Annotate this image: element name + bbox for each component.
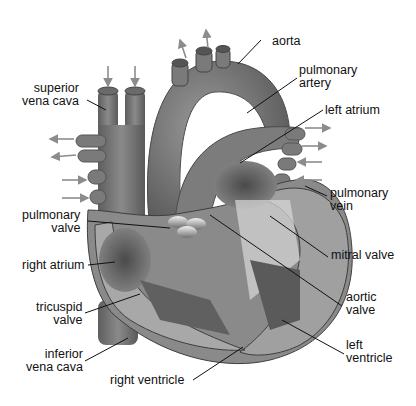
- label-pulmonary-artery: pulmonary artery: [299, 64, 357, 90]
- label-pulmonary-valve: pulmonary valve: [22, 209, 80, 235]
- label-tricuspid-valve: tricuspid valve: [36, 301, 83, 327]
- label-aortic-valve: aortic valve: [346, 291, 377, 317]
- label-inferior-vena-cava: inferior vena cava: [26, 348, 83, 374]
- label-mitral-valve: mitral valve: [331, 249, 394, 262]
- label-pulmonary-vein: pulmonary vein: [330, 187, 388, 213]
- label-left-ventricle: left ventricle: [346, 339, 393, 365]
- heart-diagram: superior vena cava aorta pulmonary arter…: [0, 0, 416, 406]
- label-aorta: aorta: [272, 35, 301, 48]
- label-right-atrium: right atrium: [22, 259, 85, 272]
- label-right-ventricle: right ventricle: [110, 374, 184, 387]
- label-superior-vena-cava: superior vena cava: [22, 82, 79, 108]
- label-left-atrium: left atrium: [325, 104, 380, 117]
